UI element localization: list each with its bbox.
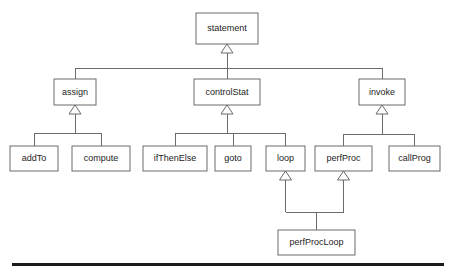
- class-node-goto[interactable]: goto: [215, 146, 251, 171]
- class-node-label: invoke: [369, 87, 395, 97]
- arrowhead-to-controlStat: [221, 105, 233, 114]
- footer-divider-rule: [12, 263, 444, 266]
- class-diagram-canvas: statementassigncontrolStatinvokeaddTocom…: [0, 0, 453, 275]
- footer-layer: [12, 263, 444, 266]
- class-diagram-container: statementassigncontrolStatinvokeaddTocom…: [0, 0, 453, 275]
- arrowhead-to-statement: [221, 44, 233, 53]
- class-node-label: ifThenElse: [154, 153, 197, 163]
- class-node-callProg[interactable]: callProg: [389, 146, 440, 171]
- class-node-compute[interactable]: compute: [72, 146, 130, 171]
- class-node-label: compute: [84, 153, 119, 163]
- class-node-label: perfProcLoop: [289, 237, 343, 247]
- class-node-invoke[interactable]: invoke: [359, 79, 405, 105]
- class-node-label: perfProc: [326, 153, 361, 163]
- class-node-assign[interactable]: assign: [54, 79, 96, 105]
- class-node-label: controlStat: [205, 87, 249, 97]
- class-node-perfProcLoop[interactable]: perfProcLoop: [278, 230, 355, 255]
- class-node-label: goto: [224, 153, 242, 163]
- arrowhead-to-invoke: [376, 105, 388, 114]
- class-node-label: addTo: [22, 153, 47, 163]
- arrowhead-to-perfProc: [338, 171, 350, 180]
- arrowhead-to-loop: [280, 171, 292, 180]
- class-node-addTo[interactable]: addTo: [10, 146, 58, 171]
- class-node-label: statement: [207, 23, 247, 33]
- class-node-label: loop: [277, 153, 294, 163]
- class-node-controlStat[interactable]: controlStat: [194, 79, 260, 105]
- class-node-ifThenElse[interactable]: ifThenElse: [143, 146, 207, 171]
- arrowhead-to-assign: [69, 105, 81, 114]
- class-node-perfProc[interactable]: perfProc: [315, 146, 372, 171]
- class-node-label: assign: [62, 87, 88, 97]
- class-node-loop[interactable]: loop: [266, 146, 305, 171]
- class-node-statement[interactable]: statement: [196, 13, 258, 44]
- class-node-label: callProg: [398, 153, 431, 163]
